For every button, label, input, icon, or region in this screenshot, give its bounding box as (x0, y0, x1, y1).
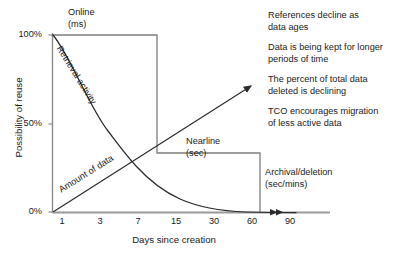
x-tick-label-90: 90 (278, 216, 302, 226)
tier-label-nearline: Nearline (186, 136, 220, 147)
y-tick-label-50: 50% (8, 118, 42, 128)
x-tick-label-30: 30 (202, 216, 226, 226)
note-percent-deleted: The percent of total data deleted is dec… (268, 74, 404, 97)
x-tick-label-15: 15 (164, 216, 188, 226)
chart-figure: Possibility of reuse Days since creation… (0, 0, 404, 253)
x-tick-label-3: 3 (88, 216, 112, 226)
axis-tail-arrowhead-2 (276, 209, 284, 215)
x-tick-label-1: 1 (50, 216, 74, 226)
note-references-decline: References decline as data ages (268, 10, 404, 33)
note-tco-migration: TCO encourages migration of less active … (268, 106, 404, 129)
x-axis-label: Days since creation (104, 234, 244, 245)
y-tick-label-0: 0% (8, 206, 42, 216)
amount-of-data-line (53, 86, 251, 212)
note-kept-longer: Data is being kept for longer periods of… (268, 42, 404, 65)
tier-unit-online: (ms) (68, 19, 86, 30)
y-tick-label-100: 100% (8, 29, 42, 39)
x-tick-label-60: 60 (240, 216, 264, 226)
tier-unit-archival: (sec/mins) (265, 179, 307, 190)
tier-label-archival: Archival/deletion (265, 167, 332, 178)
tier-label-online: Online (68, 7, 95, 18)
tier-unit-nearline: (sec) (186, 148, 206, 159)
x-tick-label-7: 7 (126, 216, 150, 226)
